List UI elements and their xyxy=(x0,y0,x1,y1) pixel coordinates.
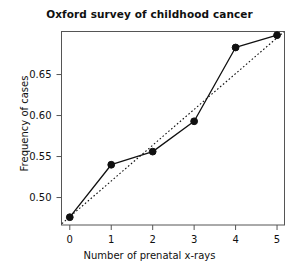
y-axis-ticks: 0.500.550.600.65 xyxy=(29,69,61,203)
data-point-marker xyxy=(108,161,115,168)
x-tick-label: 5 xyxy=(274,234,280,245)
plot-frame xyxy=(62,32,285,226)
y-tick-label: 0.60 xyxy=(29,110,51,121)
x-tick-label: 2 xyxy=(150,234,156,245)
y-tick-label: 0.50 xyxy=(29,192,51,203)
data-point-marker xyxy=(149,148,156,155)
data-point-marker xyxy=(66,214,73,221)
data-point-marker xyxy=(232,44,239,51)
x-axis-ticks: 012345 xyxy=(67,225,281,245)
trend-line-segment xyxy=(62,32,284,224)
x-tick-label: 0 xyxy=(67,234,73,245)
trend-line xyxy=(62,32,284,224)
y-tick-label: 0.65 xyxy=(29,69,51,80)
data-line xyxy=(70,35,277,217)
x-tick-label: 3 xyxy=(191,234,197,245)
data-point-marker xyxy=(274,32,281,39)
data-point-markers xyxy=(66,32,280,221)
observed-polyline xyxy=(70,35,277,217)
data-point-marker xyxy=(191,118,198,125)
plot-area: 012345 0.500.550.600.65 xyxy=(0,0,299,272)
chart-figure: Oxford survey of childhood cancer Freque… xyxy=(0,0,299,272)
x-tick-label: 1 xyxy=(108,234,114,245)
y-tick-label: 0.55 xyxy=(29,151,51,162)
x-tick-label: 4 xyxy=(232,234,238,245)
